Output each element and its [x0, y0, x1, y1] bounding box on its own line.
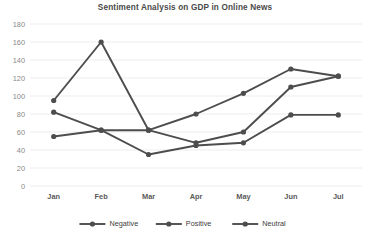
legend-label: Negative — [109, 219, 138, 228]
data-point-positive — [146, 128, 151, 133]
y-axis-tick-label: 20 — [17, 164, 25, 173]
y-axis-tick-label: 180 — [13, 20, 25, 29]
y-axis-tick-label: 40 — [17, 146, 25, 155]
y-axis-tick-label: 60 — [17, 128, 25, 137]
y-axis-tick-label: 120 — [13, 74, 25, 83]
x-axis-tick-label: Feb — [95, 192, 109, 201]
x-axis-tick-label: Apr — [190, 192, 203, 201]
x-axis-tick-label: Jan — [47, 192, 60, 201]
x-axis-tick-label: Jun — [284, 192, 298, 201]
data-point-neutral — [288, 112, 293, 117]
y-axis-tick-labels: 020406080100120140160180 — [13, 20, 25, 191]
legend-item-positive[interactable]: Positive — [156, 219, 212, 228]
legend-item-negative[interactable]: Negative — [79, 219, 138, 228]
data-point-negative — [51, 98, 56, 103]
series-line-neutral — [54, 115, 339, 155]
legend-item-neutral[interactable]: Neutral — [232, 219, 286, 228]
data-point-positive — [51, 110, 56, 115]
data-point-positive — [336, 74, 341, 79]
data-point-neutral — [99, 128, 104, 133]
data-point-neutral — [146, 152, 151, 157]
data-point-negative — [288, 84, 293, 89]
data-point-neutral — [51, 134, 56, 139]
data-point-negative — [99, 39, 104, 44]
y-axis-tick-label: 0 — [21, 182, 25, 191]
legend-marker — [90, 221, 95, 226]
x-axis-tick-labels: JanFebMarAprMayJunJul — [47, 192, 343, 201]
data-series-group — [51, 39, 341, 157]
data-point-positive — [288, 66, 293, 71]
x-axis-tick-label: Jul — [333, 192, 344, 201]
chart-container: Sentiment Analysis on GDP in Online News… — [0, 0, 370, 239]
gridlines — [30, 24, 362, 186]
line-chart-plot: 020406080100120140160180 JanFebMarAprMay… — [0, 0, 370, 239]
data-point-positive — [241, 91, 246, 96]
data-point-neutral — [241, 140, 246, 145]
y-axis-tick-label: 140 — [13, 56, 25, 65]
data-point-negative — [241, 129, 246, 134]
legend-label: Neutral — [262, 219, 286, 228]
legend-marker — [243, 221, 248, 226]
legend-marker — [166, 221, 171, 226]
data-point-neutral — [336, 112, 341, 117]
data-point-positive — [193, 111, 198, 116]
chart-legend: NegativePositiveNeutral — [79, 219, 286, 228]
x-axis-tick-label: May — [236, 192, 251, 201]
x-axis-tick-label: Mar — [142, 192, 155, 201]
legend-label: Positive — [186, 219, 212, 228]
data-point-neutral — [193, 143, 198, 148]
y-axis-tick-label: 160 — [13, 38, 25, 47]
y-axis-tick-label: 80 — [17, 110, 25, 119]
y-axis-tick-label: 100 — [13, 92, 25, 101]
